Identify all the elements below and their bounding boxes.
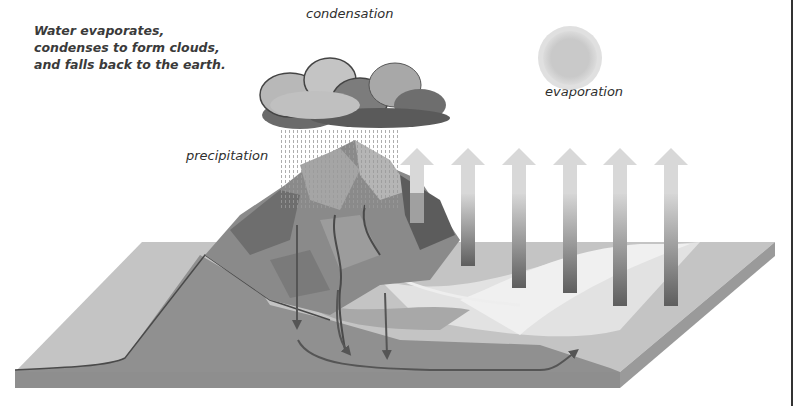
sun-icon: [538, 26, 602, 90]
rain-dots: [278, 130, 398, 210]
storm-cloud: [260, 58, 450, 129]
water-cycle-illustration: [0, 0, 793, 406]
